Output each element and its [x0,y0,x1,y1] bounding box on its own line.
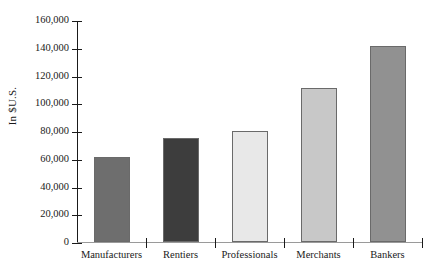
y-axis-tick-label: 140,000 [9,42,69,53]
y-axis-tick-label: 160,000 [9,14,69,25]
y-axis-tick [72,243,82,244]
bar-manufacturers [94,157,130,242]
x-axis-tick [215,238,216,248]
y-axis-tick-label: 80,000 [9,125,69,136]
bar-professionals [232,131,268,242]
y-axis-tick [72,160,82,161]
plot-area: 020,00040,00060,00080,000100,000120,0001… [77,21,422,243]
y-axis-tick-label: 40,000 [9,181,69,192]
y-axis-tick-label: 100,000 [9,97,69,108]
x-axis-tick [353,238,354,248]
y-axis-tick [72,21,82,22]
y-axis-tick-label: 0 [9,236,69,247]
x-axis-tick [422,238,423,248]
y-axis-tick [72,215,82,216]
bar-merchants [301,88,337,242]
x-axis-label-bankers: Bankers [338,249,430,260]
y-axis-tick-label: 20,000 [9,208,69,219]
x-axis-tick [284,238,285,248]
y-axis-tick-label: 60,000 [9,153,69,164]
y-axis-tick [72,104,82,105]
bar-chart: In $U.S. 020,00040,00060,00080,000100,00… [0,0,430,274]
y-axis-tick [72,188,82,189]
bar-bankers [370,46,406,242]
y-axis-tick [72,77,82,78]
y-axis-tick [72,49,82,50]
bar-rentiers [163,138,199,242]
x-axis-line [77,242,422,243]
y-axis-tick [72,132,82,133]
y-axis-tick-label: 120,000 [9,70,69,81]
x-axis-tick [146,238,147,248]
